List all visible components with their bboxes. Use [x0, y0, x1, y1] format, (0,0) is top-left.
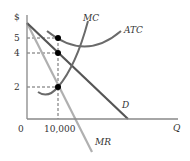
x-axis-label: Q — [173, 123, 181, 133]
atc-label: ATC — [123, 25, 143, 35]
origin-label: 0 — [18, 124, 24, 134]
mr-label: MR — [94, 137, 111, 147]
mc-label: MC — [82, 13, 99, 23]
y-tick-5: 5 — [14, 33, 20, 43]
demand-label: D — [121, 100, 129, 110]
mc-mr-intersection-point — [55, 84, 61, 90]
guide-lines — [27, 38, 58, 119]
price-point — [55, 35, 61, 41]
y-tick-4: 4 — [14, 48, 20, 58]
atc-point — [55, 50, 61, 56]
y-tick-2: 2 — [14, 82, 20, 92]
x-tick-10000: 10,000 — [44, 124, 76, 134]
chart-svg: $ 5 4 2 0 10,000 Q MC ATC D MR — [0, 0, 190, 161]
y-axis-label: $ — [14, 12, 20, 22]
